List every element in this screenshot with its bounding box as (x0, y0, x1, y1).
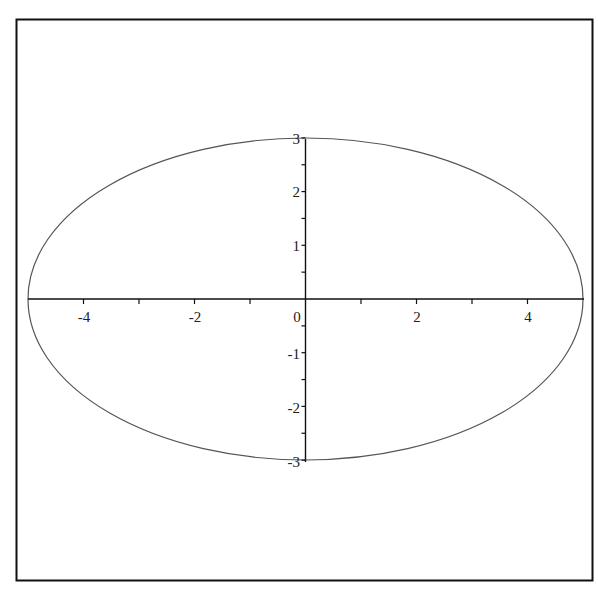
y-tick-label: -1 (288, 346, 301, 362)
plot-frame (17, 20, 593, 581)
y-tick-label: -3 (288, 454, 301, 470)
x-tick-label: 2 (413, 309, 421, 325)
y-tick-label: 3 (293, 131, 301, 147)
y-tick-label: -2 (288, 400, 301, 416)
y-tick-label: 1 (293, 238, 301, 254)
x-tick-label: -2 (189, 309, 202, 325)
y-tick-label: 2 (293, 184, 301, 200)
x-tick-label: -4 (78, 309, 91, 325)
x-tick-label: 4 (524, 309, 532, 325)
x-tick-label: 0 (293, 309, 301, 325)
ellipse-plot: -4 -2 0 2 4 3 2 1 -1 -2 -3 (0, 0, 598, 592)
